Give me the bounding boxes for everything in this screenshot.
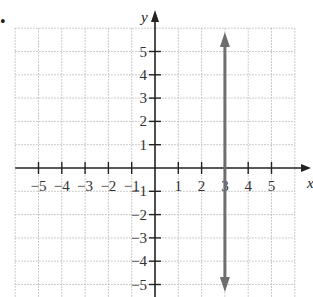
coordinate-plane-chart: • −5−4−3−2−112345−5−4−3−2−112345 x y: [0, 0, 313, 297]
y-tick-label: −4: [131, 253, 147, 269]
y-tick-label: 4: [140, 67, 148, 83]
y-tick-label: −3: [131, 230, 147, 246]
x-tick-label: −2: [100, 178, 116, 194]
y-axis-label: y: [139, 9, 148, 25]
x-tick-label: 2: [198, 178, 206, 194]
y-tick-label: 2: [140, 113, 148, 129]
x-tick-label: 5: [268, 178, 276, 194]
plotted-series: [220, 32, 230, 292]
arrow-up-icon: [220, 32, 230, 47]
y-tick-label: −2: [131, 207, 147, 223]
problem-bullet: •: [0, 13, 6, 30]
x-tick-label: −5: [31, 178, 47, 194]
x-tick-label: 4: [244, 178, 252, 194]
y-tick-label: 3: [140, 90, 148, 106]
y-axis-arrow-icon: [151, 10, 159, 22]
x-axis-label: x: [306, 175, 313, 191]
y-tick-label: −1: [131, 183, 147, 199]
y-tick-label: 5: [140, 44, 148, 60]
x-tick-label: −3: [77, 178, 93, 194]
y-tick-label: −5: [131, 277, 147, 293]
x-tick-label: 1: [175, 178, 183, 194]
x-tick-label: −4: [54, 178, 70, 194]
x-axis-arrow-icon: [301, 164, 311, 172]
axes: [15, 10, 311, 297]
y-tick-label: 1: [140, 137, 148, 153]
